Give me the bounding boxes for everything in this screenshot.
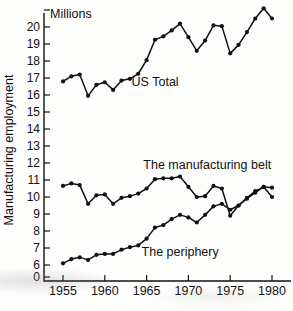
data-point [111, 202, 115, 206]
y-tick-label: 0 [33, 270, 40, 284]
y-tick-label: 9 [33, 207, 40, 221]
units-caption: Millions [50, 7, 92, 21]
data-point [128, 245, 132, 249]
y-tick-label: 11 [28, 173, 41, 187]
x-tick-label: 1955 [49, 284, 77, 298]
y-tick-label: 19 [27, 37, 41, 51]
data-point [253, 191, 257, 195]
data-point [94, 83, 98, 87]
data-point [153, 177, 157, 181]
data-point [136, 243, 140, 247]
chart-axes [44, 10, 291, 281]
data-point [69, 74, 73, 78]
data-point [203, 39, 207, 43]
y-tick-label: 18 [27, 54, 41, 68]
data-point [220, 186, 224, 190]
data-point [145, 237, 149, 241]
y-tick-label: 10 [27, 190, 41, 204]
data-point [178, 213, 182, 217]
data-point [211, 184, 215, 188]
data-point [203, 194, 207, 198]
data-point [86, 94, 90, 98]
data-point [78, 183, 82, 187]
data-point [270, 195, 274, 199]
data-point [262, 6, 266, 10]
y-tick-label: 15 [27, 105, 41, 119]
data-point [211, 23, 215, 27]
data-point [78, 255, 82, 259]
y-tick-label: 12 [27, 156, 41, 170]
data-point [61, 79, 65, 83]
data-point [220, 24, 224, 28]
chart-figure: 067891011121314151617181920 195519601965… [0, 0, 293, 311]
data-point [228, 208, 232, 212]
data-point [94, 193, 98, 197]
data-point [61, 184, 65, 188]
data-point [195, 49, 199, 53]
x-tick-label: 1965 [133, 284, 161, 298]
data-point [253, 16, 257, 20]
data-point [195, 195, 199, 199]
data-point [270, 186, 274, 190]
y-tick-label: 6 [33, 258, 40, 272]
data-point [111, 88, 115, 92]
y-tick-label: 16 [27, 88, 41, 102]
data-point [86, 258, 90, 262]
data-point [153, 38, 157, 42]
x-tick-label: 1960 [91, 284, 119, 298]
y-axis-title: Manufacturing employment [2, 74, 16, 225]
y-tick-labels: 067891011121314151617181920 [27, 20, 41, 284]
line-chart: 067891011121314151617181920 195519601965… [0, 0, 293, 311]
data-point [69, 257, 73, 261]
data-point [178, 175, 182, 179]
data-point [262, 185, 266, 189]
data-point [236, 43, 240, 47]
data-point [178, 22, 182, 26]
data-point [136, 192, 140, 196]
data-point [195, 220, 199, 224]
series-the-manufacturing-belt [61, 175, 274, 218]
data-point [78, 73, 82, 77]
data-point [119, 248, 123, 252]
y-tick-label: 20 [27, 20, 41, 34]
y-tick-label: 8 [33, 224, 40, 238]
data-point [103, 80, 107, 84]
data-point [228, 51, 232, 55]
data-point [170, 28, 174, 32]
y-tick-label: 17 [27, 71, 41, 85]
x-tick-label: 1970 [174, 284, 202, 298]
series-label-the-periphery: The periphery [142, 245, 220, 259]
data-point [170, 176, 174, 180]
data-point [145, 186, 149, 190]
series-label-the-manufacturing-belt: The manufacturing belt [143, 158, 271, 172]
data-point [119, 78, 123, 82]
data-point [220, 202, 224, 206]
x-tick-label: 1975 [216, 284, 244, 298]
data-point [245, 197, 249, 201]
data-point [103, 192, 107, 196]
data-point [103, 252, 107, 256]
x-tick-label: 1980 [258, 284, 286, 298]
series-label-us-total: US Total [132, 75, 179, 89]
y-tick-label: 7 [33, 241, 40, 255]
data-point [128, 194, 132, 198]
data-point [270, 16, 274, 20]
data-point [161, 176, 165, 180]
data-point [153, 226, 157, 230]
data-point [69, 181, 73, 185]
data-point [161, 34, 165, 38]
data-point [211, 204, 215, 208]
data-point [61, 261, 65, 265]
data-point [86, 202, 90, 206]
data-point [186, 35, 190, 39]
y-tick-label: 13 [27, 139, 41, 153]
x-tick-labels: 195519601965197019751980 [49, 284, 286, 298]
data-point [245, 30, 249, 34]
data-point [236, 203, 240, 207]
data-point [111, 252, 115, 256]
data-series-layer [61, 6, 274, 265]
data-point [170, 217, 174, 221]
data-point [228, 214, 232, 218]
data-point [145, 58, 149, 62]
data-point [186, 215, 190, 219]
